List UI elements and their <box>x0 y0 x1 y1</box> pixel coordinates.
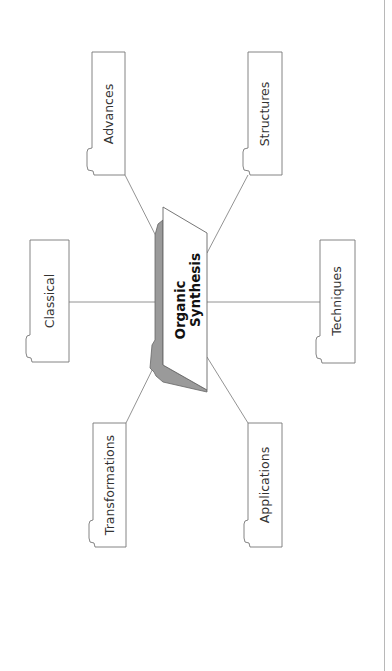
connector-applications <box>207 357 248 423</box>
node-label-applications: Applications <box>257 435 273 535</box>
node-label-advances: Advances <box>101 64 117 164</box>
node-label-transformations: Transformations <box>102 430 118 540</box>
node-label-classical: Classical <box>42 251 58 351</box>
center-label-synthesis: Synthesis <box>186 245 204 335</box>
node-label-techniques: Techniques <box>329 251 345 351</box>
connector-structures <box>207 175 248 253</box>
node-label-structures: Structures <box>257 64 273 164</box>
